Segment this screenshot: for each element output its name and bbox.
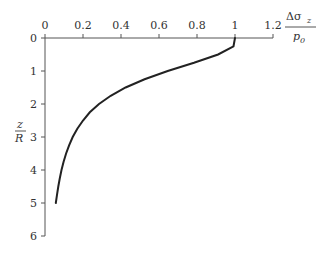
x-tick-label: 1 [232, 19, 239, 32]
x-axis: 00.20.40.60.811.2 [42, 19, 282, 38]
y-tick-label: 6 [30, 230, 37, 243]
x-axis-label: Δσ z p 0 [285, 10, 316, 45]
x-tick-label: 1.2 [264, 19, 282, 32]
y-tick-label: 4 [30, 164, 37, 177]
x-tick-label: 0.2 [74, 19, 92, 32]
x-label-numerator-sub: z [306, 16, 312, 25]
y-tick-label: 1 [30, 65, 37, 78]
stress-depth-chart: 00.20.40.60.811.2 0123456 Δσ z p 0 z R [0, 0, 332, 255]
stress-curve [56, 38, 235, 203]
y-tick-label: 0 [30, 32, 37, 45]
y-label-denominator: R [14, 132, 23, 145]
x-label-denominator: p [293, 30, 300, 43]
x-tick-label: 0.8 [188, 19, 206, 32]
x-tick-label: 0.4 [112, 19, 130, 32]
y-label-numerator: z [16, 118, 23, 131]
x-label-denominator-sub: 0 [300, 36, 305, 45]
y-axis: 0123456 [30, 32, 45, 243]
x-label-numerator: Δσ [286, 10, 302, 23]
x-tick-label: 0 [42, 19, 49, 32]
x-tick-label: 0.6 [150, 19, 168, 32]
y-tick-label: 5 [30, 197, 37, 210]
y-axis-label: z R [14, 118, 26, 145]
y-tick-label: 2 [30, 98, 37, 111]
y-tick-label: 3 [30, 131, 37, 144]
